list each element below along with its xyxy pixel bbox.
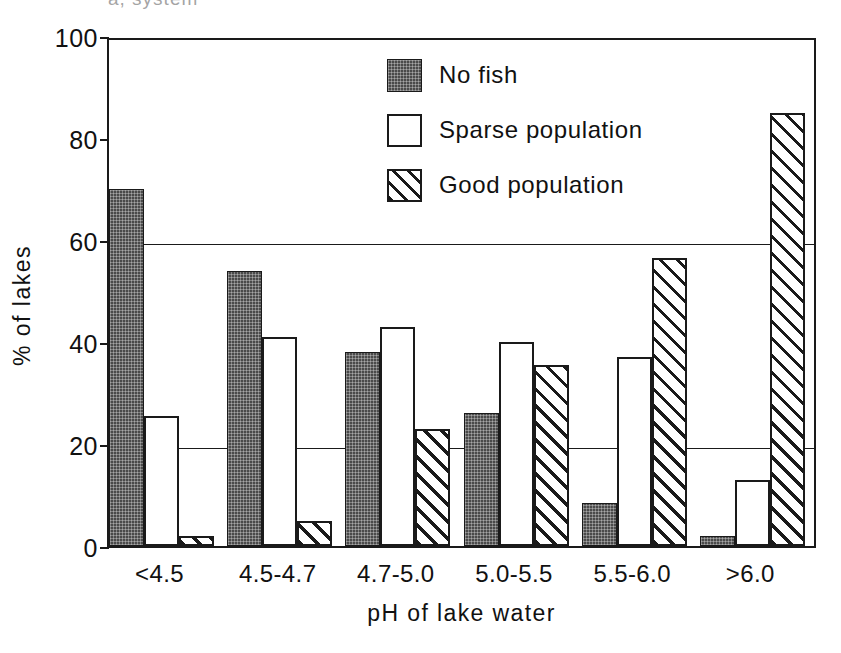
y-tick-label-0: 0 <box>84 534 98 563</box>
x-axis-ticks: <4.54.5-4.74.7-5.05.0-5.55.5-6.0>6.0 <box>107 560 816 594</box>
legend-item-no-fish[interactable]: No fish <box>387 52 717 98</box>
y-tick-label-60: 60 <box>69 228 98 257</box>
y-tick-label-100: 100 <box>55 24 98 53</box>
x-tick-label-3: 5.0-5.5 <box>475 560 553 588</box>
legend-item-sparse-population[interactable]: Sparse population <box>387 107 717 153</box>
bar <box>109 189 144 546</box>
x-tick-label-1: 4.5-4.7 <box>239 560 317 588</box>
bar <box>415 429 450 546</box>
bar <box>770 113 805 547</box>
bar <box>345 352 380 546</box>
x-tick-label-2: 4.7-5.0 <box>357 560 435 588</box>
bar <box>144 416 179 546</box>
y-axis-title: % of lakes <box>9 221 36 391</box>
white-swatch-icon <box>387 114 422 147</box>
bar <box>652 258 687 546</box>
x-axis-title: pH of lake water <box>107 600 816 627</box>
bar <box>534 365 569 546</box>
bar <box>380 327 415 546</box>
cropped-header-artifact: a, system <box>108 0 198 10</box>
x-tick-label-0: <4.5 <box>135 560 184 588</box>
x-tick-label-4: 5.5-6.0 <box>593 560 671 588</box>
bar <box>297 521 332 547</box>
legend-item-good-population[interactable]: Good population <box>387 162 717 208</box>
bar <box>582 503 617 546</box>
bar <box>499 342 534 546</box>
bar <box>464 413 499 546</box>
plot-area: No fish Sparse population Good populatio… <box>107 38 816 548</box>
bar <box>262 337 297 546</box>
legend-label-no-fish: No fish <box>439 61 518 89</box>
legend-label-sparse-population: Sparse population <box>439 116 643 144</box>
hatched-swatch-icon <box>387 169 422 202</box>
bar <box>227 271 262 546</box>
legend: No fish Sparse population Good populatio… <box>387 52 717 217</box>
bar <box>617 357 652 546</box>
y-tick-label-20: 20 <box>69 432 98 461</box>
y-axis-ticks: 020406080100 <box>40 38 98 548</box>
x-tick-label-5: >6.0 <box>726 560 775 588</box>
bar <box>735 480 770 546</box>
bar-chart-figure: a, system 020406080100 % of lakes No fis… <box>0 0 841 653</box>
solid-dark-swatch-icon <box>387 59 422 92</box>
bar <box>179 536 214 546</box>
y-tick-label-80: 80 <box>69 126 98 155</box>
y-tick-label-40: 40 <box>69 330 98 359</box>
bar <box>700 536 735 546</box>
legend-label-good-population: Good population <box>439 171 624 199</box>
